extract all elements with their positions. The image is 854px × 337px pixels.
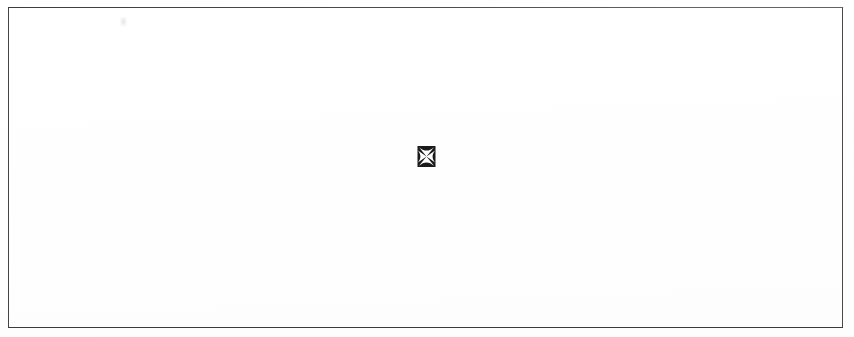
scanned-page [0, 0, 854, 337]
cross-pattee-icon [417, 146, 436, 167]
page-border-rule [8, 7, 843, 328]
cross-pattee-glyph-svg [417, 146, 436, 167]
